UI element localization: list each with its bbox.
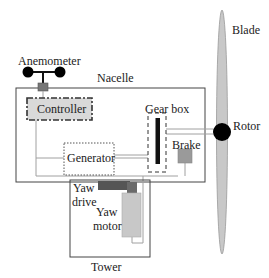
wind-turbine-diagram [0, 0, 269, 278]
rotor-label: Rotor [233, 120, 260, 132]
anemometer-icon [23, 67, 66, 92]
rotor-hub [213, 123, 231, 141]
gear-box-label: Gear box [145, 103, 189, 115]
yaw-motor-label-line2: motor [93, 220, 122, 232]
yaw-drive-bar [98, 181, 130, 190]
controller-label: Controller [37, 103, 86, 115]
blade-label: Blade [232, 24, 260, 36]
yaw-motor-label-line1: Yaw [96, 206, 117, 218]
nacelle-label: Nacelle [97, 72, 134, 84]
tower-label: Tower [91, 261, 121, 273]
generator-label: Generator [67, 152, 115, 164]
yaw-drive-label-line2: drive [72, 196, 97, 208]
gear-box-shaft [156, 118, 161, 164]
yaw-drive-label-line1: Yaw [73, 182, 94, 194]
brake-label: Brake [172, 139, 201, 151]
anemometer-label: Anemometer [18, 55, 81, 67]
yaw-motor-block [122, 193, 141, 237]
